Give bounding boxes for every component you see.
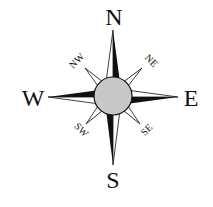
compass-rose: N S W E NW NE SW SE xyxy=(0,0,213,207)
label-north: N xyxy=(105,4,122,30)
label-southwest: SW xyxy=(72,120,91,139)
label-northeast: NE xyxy=(143,52,160,69)
label-south: S xyxy=(106,167,119,193)
label-northwest: NW xyxy=(67,50,87,70)
label-west: W xyxy=(22,85,45,111)
label-southeast: SE xyxy=(139,122,155,138)
center-hub xyxy=(94,77,132,115)
label-east: E xyxy=(184,85,199,111)
